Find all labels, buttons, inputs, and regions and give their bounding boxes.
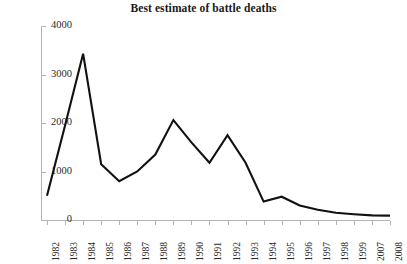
series-line-path — [47, 54, 390, 216]
plot-area: 01000200030004000 1982198319841985198619… — [0, 0, 407, 264]
chart-container: Best estimate of battle deaths 010002000… — [0, 0, 407, 264]
series-line-chart — [0, 0, 407, 264]
